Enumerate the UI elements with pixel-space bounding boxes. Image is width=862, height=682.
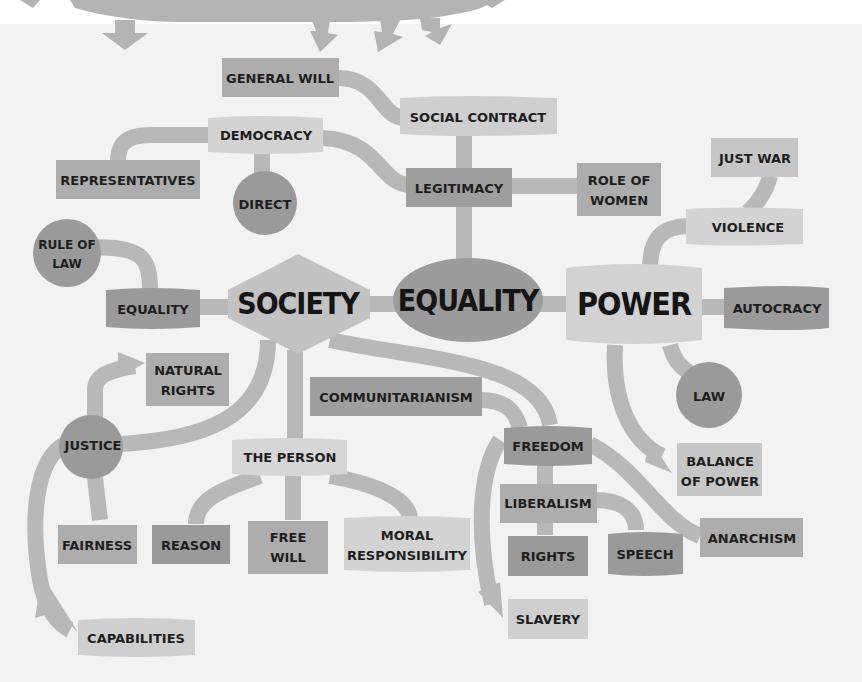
svg-text:MORAL: MORAL (381, 528, 433, 543)
node-fairness[interactable]: FAIRNESS (58, 525, 137, 564)
node-speech[interactable]: SPEECH (608, 532, 683, 576)
svg-text:REASON: REASON (161, 538, 221, 553)
svg-text:REPRESENTATIVES: REPRESENTATIVES (60, 173, 195, 188)
node-law[interactable]: LAW (676, 362, 742, 428)
svg-text:JUST WAR: JUST WAR (718, 151, 791, 166)
node-just-war[interactable]: JUST WAR (711, 138, 798, 177)
svg-text:DEMOCRACY: DEMOCRACY (220, 128, 313, 143)
svg-text:WILL: WILL (270, 550, 306, 565)
svg-text:GENERAL WILL: GENERAL WILL (226, 71, 334, 86)
svg-text:EQUALITY: EQUALITY (117, 302, 189, 317)
node-representatives[interactable]: REPRESENTATIVES (56, 160, 200, 199)
svg-text:SLAVERY: SLAVERY (516, 612, 581, 627)
node-capabilities[interactable]: CAPABILITIES (78, 618, 195, 657)
svg-text:BALANCE: BALANCE (686, 454, 754, 469)
node-rule-of-law[interactable]: RULE OF LAW (33, 219, 101, 287)
node-communitarianism[interactable]: COMMUNITARIANISM (310, 377, 482, 416)
svg-text:FREE: FREE (270, 530, 307, 545)
node-reason[interactable]: REASON (152, 525, 230, 564)
svg-text:FAIRNESS: FAIRNESS (62, 538, 132, 553)
node-justice[interactable]: JUSTICE (59, 415, 123, 479)
node-free-will[interactable]: FREE WILL (248, 521, 328, 574)
node-rights[interactable]: RIGHTS (508, 536, 588, 576)
svg-text:ANARCHISM: ANARCHISM (708, 531, 797, 546)
svg-text:OF POWER: OF POWER (681, 474, 759, 489)
node-balance-of-power[interactable]: BALANCE OF POWER (677, 443, 762, 496)
svg-text:THE PERSON: THE PERSON (244, 450, 337, 465)
concept-map: SOCIETY EQUALITY POWER GENERAL WILL SOCI… (0, 0, 862, 682)
hub-power-label: POWER (577, 285, 692, 323)
svg-text:LEGITIMACY: LEGITIMACY (415, 181, 504, 196)
svg-text:RIGHTS: RIGHTS (161, 383, 216, 398)
svg-text:VIOLENCE: VIOLENCE (712, 220, 784, 235)
concept-map-canvas: SOCIETY EQUALITY POWER GENERAL WILL SOCI… (0, 0, 862, 682)
svg-text:WOMEN: WOMEN (590, 193, 648, 208)
svg-text:RESPONSIBILITY: RESPONSIBILITY (347, 548, 468, 563)
node-direct[interactable]: DIRECT (233, 171, 297, 235)
svg-text:RULE OF: RULE OF (38, 238, 95, 252)
svg-text:COMMUNITARIANISM: COMMUNITARIANISM (319, 390, 473, 405)
node-the-person[interactable]: THE PERSON (232, 438, 347, 476)
hub-power[interactable]: POWER (566, 264, 702, 344)
node-liberalism[interactable]: LIBERALISM (500, 484, 597, 523)
node-equality[interactable]: EQUALITY (106, 288, 200, 329)
svg-text:DIRECT: DIRECT (239, 197, 292, 212)
node-role-of-women[interactable]: ROLE OF WOMEN (577, 163, 661, 216)
svg-text:LIBERALISM: LIBERALISM (504, 496, 591, 511)
svg-text:ROLE OF: ROLE OF (588, 173, 651, 188)
svg-text:FREEDOM: FREEDOM (512, 439, 583, 454)
svg-text:SOCIAL CONTRACT: SOCIAL CONTRACT (410, 110, 547, 125)
svg-text:AUTOCRACY: AUTOCRACY (733, 301, 822, 316)
node-moral-responsibility[interactable]: MORAL RESPONSIBILITY (344, 516, 470, 572)
node-general-will[interactable]: GENERAL WILL (222, 58, 339, 97)
node-legitimacy[interactable]: LEGITIMACY (406, 168, 512, 207)
hub-society-label: SOCIETY (237, 286, 360, 321)
svg-text:LAW: LAW (52, 257, 82, 271)
node-slavery[interactable]: SLAVERY (508, 599, 588, 639)
node-freedom[interactable]: FREEDOM (504, 426, 592, 466)
svg-text:LAW: LAW (693, 389, 725, 404)
hub-equality-label: EQUALITY (398, 283, 540, 318)
node-social-contract[interactable]: SOCIAL CONTRACT (400, 96, 557, 136)
hub-equality[interactable]: EQUALITY (393, 258, 543, 342)
svg-text:JUSTICE: JUSTICE (64, 438, 122, 453)
node-natural-rights[interactable]: NATURAL RIGHTS (146, 353, 229, 406)
node-violence[interactable]: VIOLENCE (686, 208, 803, 246)
svg-text:CAPABILITIES: CAPABILITIES (87, 631, 185, 646)
node-autocracy[interactable]: AUTOCRACY (724, 286, 829, 330)
svg-text:NATURAL: NATURAL (154, 363, 222, 378)
svg-text:SPEECH: SPEECH (616, 547, 673, 562)
node-democracy[interactable]: DEMOCRACY (208, 116, 323, 154)
node-anarchism[interactable]: ANARCHISM (700, 518, 803, 557)
svg-text:RIGHTS: RIGHTS (521, 549, 576, 564)
